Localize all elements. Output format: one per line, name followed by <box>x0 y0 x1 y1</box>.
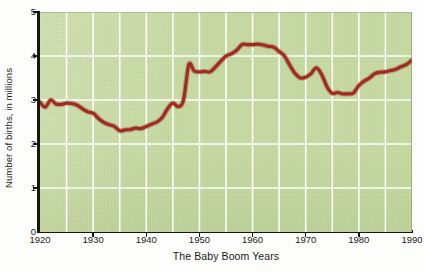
x-axis-tick-labels: 19201930194019501960197019801990 <box>0 234 424 248</box>
x-tick-mark <box>146 233 148 237</box>
x-tick-mark <box>92 233 94 237</box>
chart-figure: Number of births, in millions 012345 192… <box>0 0 424 272</box>
x-tick-mark <box>358 233 360 237</box>
births-line-series <box>40 12 412 232</box>
x-tick-mark <box>252 233 254 237</box>
y-tick-mark <box>33 143 38 145</box>
y-tick-mark <box>33 99 38 101</box>
x-tick-label: 1920 <box>29 234 50 246</box>
x-tick-mark <box>305 233 307 237</box>
y-tick-mark <box>33 55 38 57</box>
y-axis-tick-labels: 012345 <box>18 0 36 272</box>
plot-area <box>40 12 412 232</box>
x-tick-mark <box>199 233 201 237</box>
y-axis-title: Number of births, in millions <box>2 12 16 244</box>
x-axis-title: The Baby Boom Years <box>40 250 412 262</box>
y-tick-mark <box>33 11 38 13</box>
y-tick-mark <box>33 187 38 189</box>
x-tick-label: 1990 <box>401 234 422 246</box>
